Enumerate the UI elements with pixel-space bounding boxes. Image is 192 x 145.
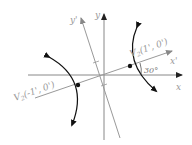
vertex-right-dot [128, 64, 132, 68]
vertex-left-dot [76, 83, 80, 87]
hyperbola-rotation-diagram: y y' x x' 30° V2(1', 0') V2(-1', 0') [0, 0, 192, 145]
y-axis-label: y [94, 10, 101, 20]
x-prime-axis-label: x' [170, 56, 178, 66]
svg-text:V2(1', 0'): V2(1', 0') [128, 36, 169, 59]
y-prime-axis-label: y' [69, 15, 78, 25]
svg-text:V2(-1', 0'): V2(-1', 0') [12, 79, 56, 103]
hyperbola-left-branch [49, 57, 77, 125]
vertex-right-label: V2(1', 0') [128, 36, 169, 59]
angle-label: 30° [144, 66, 158, 75]
vertex-left-label: V2(-1', 0') [12, 79, 56, 103]
x-axis-label: x [176, 82, 181, 92]
hyperbola-right-branch [132, 27, 156, 91]
y-prime-axis [81, 18, 120, 138]
